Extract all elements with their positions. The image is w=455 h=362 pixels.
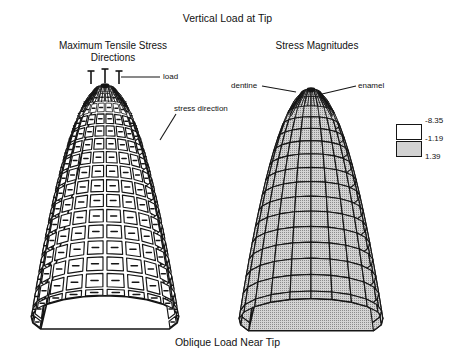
annotation-label-dentine: dentine: [231, 81, 257, 90]
figure-main-title: Vertical Load at Tip: [0, 12, 455, 24]
figure-bottom-caption: Oblique Load Near Tip: [0, 336, 455, 348]
panel-title-stress-magnitudes: Stress Magnitudes: [242, 40, 392, 52]
legend-value-middle: -1.19: [425, 134, 443, 143]
annotation-label-load: load: [163, 72, 178, 81]
figure-canvas: Vertical Load at Tip Maximum Tensile Str…: [0, 0, 455, 362]
legend-swatch-white: [396, 124, 422, 140]
panel-title-line2: Directions: [91, 52, 135, 63]
annotation-label-enamel: enamel: [358, 81, 384, 90]
tooth-mesh-right: [239, 87, 383, 330]
legend-value-lower: 1.39: [425, 152, 441, 161]
legend-value-upper: -8.35: [425, 116, 443, 125]
annotation-label-stress-direction: stress direction: [174, 104, 228, 113]
panel-title-tensile-directions: Maximum Tensile StressDirections: [38, 40, 188, 64]
panel-title-line1: Maximum Tensile Stress: [59, 40, 167, 51]
tooth-mesh-left: [31, 69, 179, 329]
legend-swatch-stipple: [396, 141, 422, 157]
